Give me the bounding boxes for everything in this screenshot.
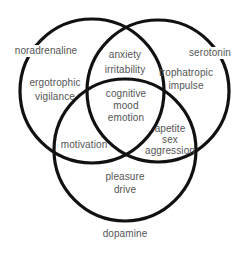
region-dopamine-only: pleasure drive: [105, 170, 144, 196]
region-text: ergotrophic: [29, 76, 80, 90]
venn-diagram: noradrenaline serotonin dopamine ergotro…: [0, 0, 252, 253]
region-text: mood: [106, 100, 146, 112]
dopamine-label: dopamine: [101, 228, 150, 240]
venn-circles: [0, 0, 252, 253]
region-text: emotion: [106, 112, 146, 124]
set-label-dopamine: dopamine: [101, 228, 150, 240]
region-text: vigilance: [29, 90, 80, 104]
region-text: drive: [105, 183, 144, 196]
region-serotonin-only: trophatropic impulse: [159, 66, 213, 92]
region-text: impulse: [159, 79, 213, 92]
region-text: cognitive: [106, 88, 146, 100]
region-noradrenaline-serotonin: anxiety irritability: [105, 47, 146, 77]
noradrenaline-label: noradrenaline: [13, 45, 79, 57]
set-label-serotonin: serotonin: [187, 47, 233, 59]
region-text: irritability: [105, 62, 146, 77]
set-label-noradrenaline: noradrenaline: [13, 45, 79, 57]
region-text: pleasure: [105, 170, 144, 183]
region-text: anxiety: [105, 47, 146, 62]
serotonin-label: serotonin: [187, 47, 233, 59]
region-serotonin-dopamine: apetite sex aggression: [145, 123, 195, 156]
region-text: apetite: [145, 123, 195, 134]
region-noradrenaline-only: ergotrophic vigilance: [29, 76, 80, 104]
region-text: motivation: [61, 139, 108, 151]
region-text: trophatropic: [159, 66, 213, 79]
region-text: aggression: [145, 145, 195, 156]
region-text: sex: [145, 134, 195, 145]
region-noradrenaline-dopamine: motivation: [61, 139, 108, 151]
region-all-three: cognitive mood emotion: [106, 88, 146, 124]
